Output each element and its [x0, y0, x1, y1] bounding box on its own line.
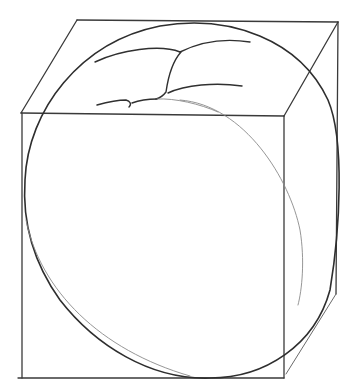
- sphere-outline: [25, 23, 340, 378]
- cube-front-top-edge: [21, 113, 284, 116]
- sphere-outline-sketch-stroke: [26, 220, 190, 376]
- cube-top-left-edge: [21, 20, 77, 113]
- cube-back-right-edge: [336, 22, 338, 294]
- cube-top-back-edge: [77, 20, 338, 22]
- fold-right-crest: [180, 40, 250, 52]
- cube-top-right-edge: [284, 22, 338, 116]
- top-fold-lines: [95, 40, 250, 112]
- inscribed-ellipse: [25, 23, 340, 378]
- sketch-drawing: [0, 0, 350, 390]
- fold-lower-lobe: [168, 84, 242, 93]
- fold-center-crease: [156, 52, 181, 99]
- cube-bottom-right-edge: [286, 294, 336, 374]
- fold-stem-right: [132, 99, 157, 103]
- sketch-canvas: Pencil sketch: sphere-like form inscribe…: [0, 0, 350, 390]
- fold-left-crest: [95, 48, 180, 62]
- fold-stem-left: [97, 100, 130, 107]
